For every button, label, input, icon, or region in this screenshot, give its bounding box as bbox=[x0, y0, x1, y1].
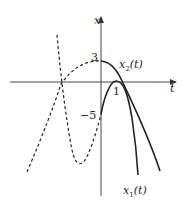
tick-label-3: 3 bbox=[91, 51, 98, 64]
tick-label-1: 1 bbox=[113, 85, 120, 98]
x2-label: x2(t) bbox=[119, 58, 143, 73]
x-axis-label: x bbox=[94, 14, 101, 27]
tick-label-neg5: −5 bbox=[80, 109, 96, 122]
x2-curve bbox=[101, 61, 160, 171]
x1-label: x1(t) bbox=[123, 184, 147, 199]
t-axis-label: t bbox=[170, 82, 175, 95]
diagram-canvas: x t 3 −5 1 x2(t) x1(t) bbox=[0, 0, 183, 209]
